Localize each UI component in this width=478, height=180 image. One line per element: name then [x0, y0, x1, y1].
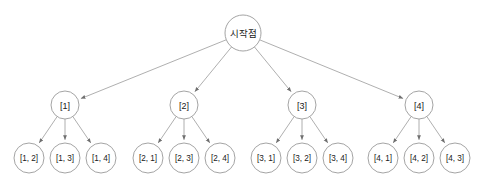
tree-edge-n3-to-n3a — [276, 117, 294, 143]
node-label-n1a: [1, 2] — [20, 154, 38, 163]
node-label-n3c: [3, 4] — [329, 154, 347, 163]
node-label-n4a: [4, 1] — [374, 154, 392, 163]
node-label-n3a: [3, 1] — [257, 154, 275, 163]
node-label-n3b: [3, 2] — [293, 154, 311, 163]
node-label-n1: [1] — [60, 101, 70, 111]
tree-node-n1b[interactable]: [1, 3] — [50, 143, 80, 173]
tree-node-n4c[interactable]: [4, 3] — [440, 143, 470, 173]
tree-edge-n2-to-n2a — [158, 117, 176, 143]
tree-node-n3[interactable]: [3] — [288, 91, 316, 119]
tree-node-n3a[interactable]: [3, 1] — [251, 143, 281, 173]
node-label-n1b: [1, 3] — [56, 154, 74, 163]
node-label-root: 시작점 — [230, 28, 257, 39]
tree-node-n4b[interactable]: [4, 2] — [404, 143, 434, 173]
node-label-n3: [3] — [297, 101, 307, 111]
tree-node-n2c[interactable]: [2, 4] — [205, 143, 235, 173]
tree-edge-n1-to-n1a — [39, 117, 57, 143]
tree-edge-root-to-n4 — [260, 40, 403, 99]
node-label-n2c: [2, 4] — [211, 154, 229, 163]
tree-node-n4a[interactable]: [4, 1] — [368, 143, 398, 173]
tree-edge-n1-to-n1c — [73, 117, 91, 143]
tree-node-n3b[interactable]: [3, 2] — [287, 143, 317, 173]
tree-node-n1a[interactable]: [1, 2] — [14, 143, 44, 173]
tree-edge-root-to-n3 — [254, 47, 291, 92]
node-label-n4c: [4, 3] — [446, 154, 464, 163]
tree-node-n2a[interactable]: [2, 1] — [133, 143, 163, 173]
tree-edge-root-to-n2 — [195, 47, 232, 92]
node-label-n2a: [2, 1] — [139, 154, 157, 163]
permutation-tree-diagram: 시작점[1][2][3][4][1, 2][1, 3][1, 4][2, 1][… — [0, 0, 478, 180]
tree-canvas: 시작점[1][2][3][4][1, 2][1, 3][1, 4][2, 1][… — [0, 0, 478, 180]
tree-edge-n2-to-n2c — [192, 117, 210, 143]
tree-edge-root-to-n1 — [81, 40, 226, 99]
node-label-n2b: [2, 3] — [175, 154, 193, 163]
node-label-n1c: [1, 4] — [92, 154, 110, 163]
edge-layer — [39, 40, 445, 143]
tree-node-n3c[interactable]: [3, 4] — [323, 143, 353, 173]
node-layer: 시작점[1][2][3][4][1, 2][1, 3][1, 4][2, 1][… — [14, 15, 470, 173]
tree-node-n4[interactable]: [4] — [405, 91, 433, 119]
tree-node-n1[interactable]: [1] — [51, 91, 79, 119]
node-label-n4b: [4, 2] — [410, 154, 428, 163]
tree-node-n1c[interactable]: [1, 4] — [86, 143, 116, 173]
tree-edge-n3-to-n3c — [310, 117, 328, 143]
node-label-n2: [2] — [179, 101, 189, 111]
tree-node-root[interactable]: 시작점 — [225, 15, 261, 51]
node-label-n4: [4] — [414, 101, 424, 111]
tree-edge-n4-to-n4c — [427, 117, 445, 143]
tree-node-n2[interactable]: [2] — [170, 91, 198, 119]
tree-edge-n4-to-n4a — [393, 117, 411, 143]
tree-node-n2b[interactable]: [2, 3] — [169, 143, 199, 173]
